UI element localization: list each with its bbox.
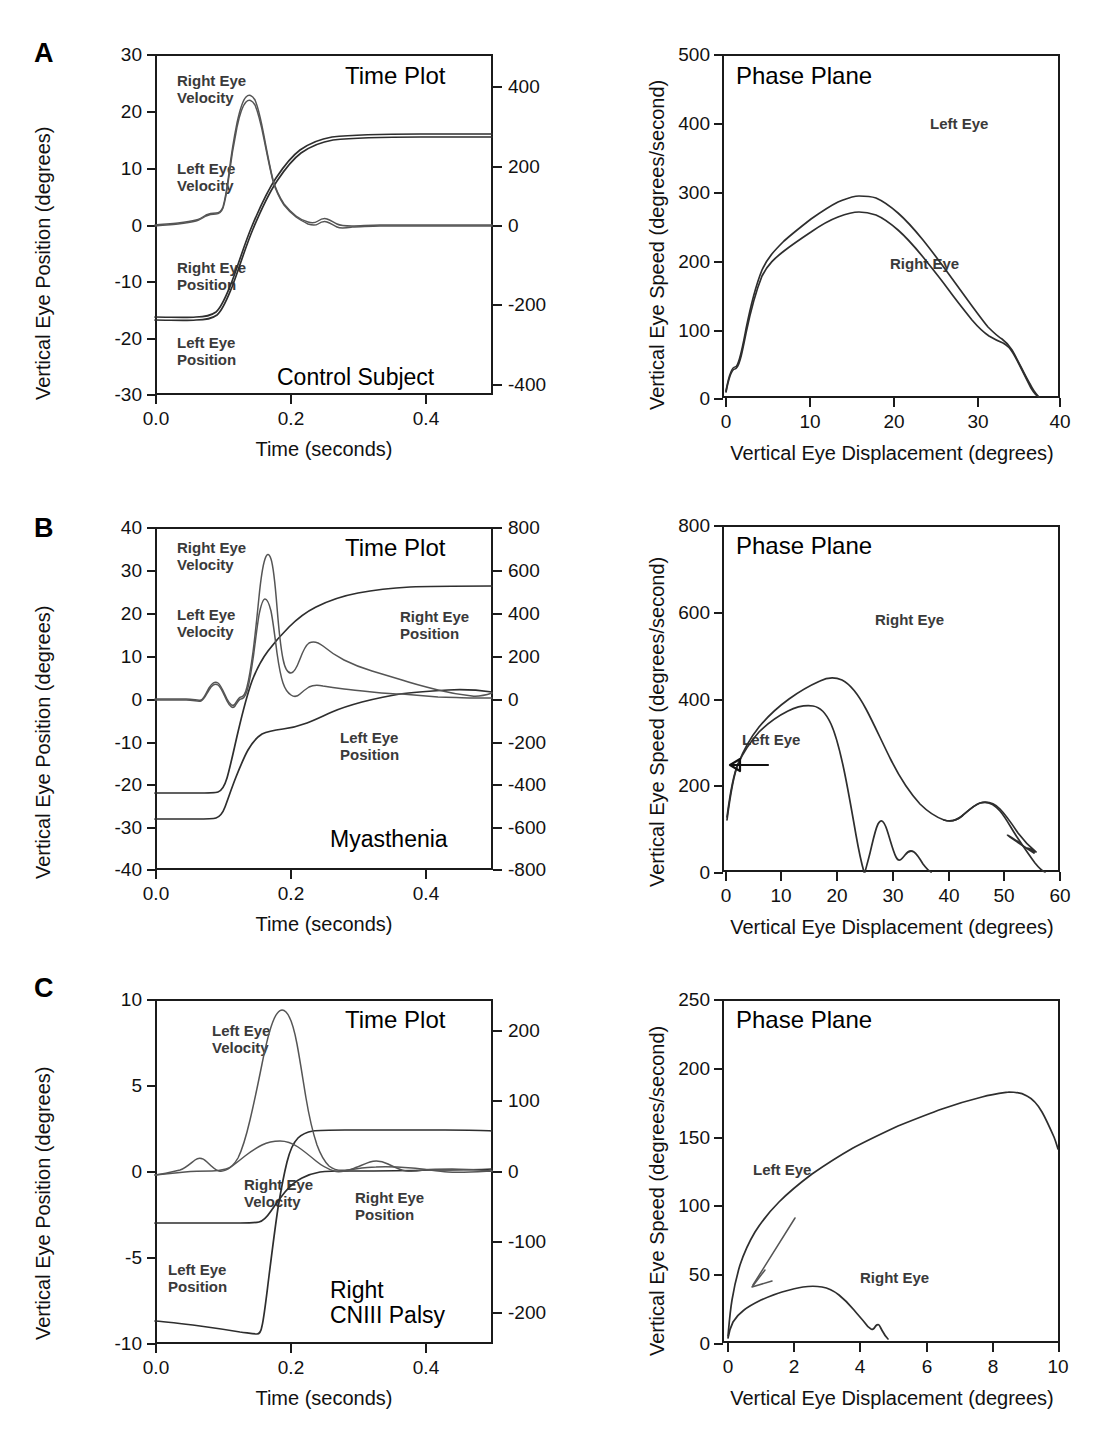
- trace-group-a-time: [0, 10, 550, 465]
- trace-right-eye: [728, 1286, 888, 1339]
- panel-b-phase-plane: Vertical Eye Speed (degrees/second) 800 …: [550, 487, 1098, 942]
- trace-left-eye-position: [155, 137, 492, 320]
- panel-b: B Vertical Eye Position (degrees) 40 30 …: [0, 487, 1098, 942]
- panel-c: C Vertical Eye Position (degrees) 10 5 0…: [0, 940, 1098, 1395]
- trace-group-a-phase: [550, 10, 1098, 465]
- trace-right-eye-velocity: [155, 555, 492, 706]
- trace-right-eye-position: [155, 1169, 492, 1223]
- trace-group-c-time: [0, 940, 550, 1395]
- trace-group-c-phase: [550, 940, 1098, 1395]
- left-eye-annotation-arrow: [753, 1218, 795, 1285]
- left-eye-annotation-arrowhead: [752, 1270, 772, 1287]
- trace-right-eye: [726, 212, 1039, 397]
- panel-c-phase-plane: Vertical Eye Speed (degrees/second) 250 …: [550, 940, 1098, 1395]
- panel-a-phase-plane: Vertical Eye Speed (degrees/second) 500 …: [550, 10, 1098, 465]
- trace-left-eye-position: [155, 690, 492, 819]
- panel-b-time-plot: Vertical Eye Position (degrees) 40 30 20…: [0, 487, 550, 942]
- trace-right-eye: [727, 678, 1036, 853]
- trace-left-eye: [727, 706, 931, 872]
- trace-group-b-phase: [550, 487, 1098, 942]
- trace-right-eye-velocity: [155, 95, 492, 226]
- panel-c-time-plot: Vertical Eye Position (degrees) 10 5 0 -…: [0, 940, 550, 1395]
- trace-left-eye-velocity: [155, 100, 492, 228]
- panel-a: A Vertical Eye Position (degrees) 30 20 …: [0, 10, 1098, 465]
- trace-group-b-time: [0, 487, 550, 942]
- panel-a-time-plot: Vertical Eye Position (degrees) 30 20 10…: [0, 10, 550, 465]
- trace-left-eye-velocity: [155, 1010, 492, 1175]
- trace-left-eye: [728, 1092, 1058, 1336]
- trace-left-eye: [726, 196, 1038, 396]
- trace-right-eye-tail: [944, 802, 1045, 872]
- trace-right-eye-position: [155, 586, 492, 793]
